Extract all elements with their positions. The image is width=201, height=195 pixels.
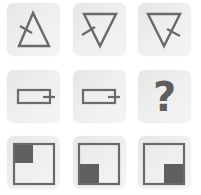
cell-r1c2-triangle-down [73, 3, 126, 56]
cell-r2c1-rectangle [7, 70, 60, 123]
triangle-down-icon [73, 3, 126, 56]
cell-r1c3-triangle-down [138, 3, 191, 56]
square-quadrant-bottom-left-icon [73, 136, 126, 189]
square-quadrant-bottom-right-icon [138, 136, 191, 189]
triangle-down-icon [138, 3, 191, 56]
cell-r1c1-triangle-up [7, 3, 60, 56]
question-mark-icon: ? [138, 70, 191, 123]
cell-r2c2-rectangle [73, 70, 126, 123]
cell-r3c1-square [7, 136, 60, 189]
cell-r3c2-square [73, 136, 126, 189]
square-quadrant-top-left-icon [7, 136, 60, 189]
cell-r3c3-square [138, 136, 191, 189]
rectangle-icon [73, 70, 126, 123]
triangle-up-icon [7, 3, 60, 56]
cell-r2c3-unknown: ? [138, 70, 191, 123]
rectangle-icon [7, 70, 60, 123]
